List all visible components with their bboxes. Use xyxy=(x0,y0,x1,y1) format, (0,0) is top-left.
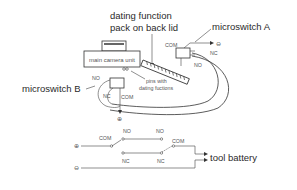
pins-label-line1: pins with xyxy=(146,78,167,84)
plus-terminal-b-icon: ⊕ xyxy=(117,116,122,122)
main-camera-unit: main camera unit xyxy=(84,41,140,70)
schematic-plus-terminal-icon: ⊕ xyxy=(74,143,79,149)
schematic-switch2-nc-label: NC xyxy=(157,158,165,164)
tool-battery-label: tool battery xyxy=(210,152,257,163)
schematic-switch1-nc-label: NC xyxy=(122,158,130,164)
microswitch-a-com-label: COM xyxy=(165,42,177,48)
microswitch-a-label: microswitch A xyxy=(212,21,271,32)
schematic-switch2-com-label: COM xyxy=(172,138,184,144)
microswitch-a-nc-wire xyxy=(184,43,212,48)
microswitch-a-leader xyxy=(195,29,211,42)
arrow-icon xyxy=(210,41,214,45)
dating-pack-label-line1: dating function xyxy=(110,10,172,21)
schematic-minus-terminal-icon: ⊖ xyxy=(74,165,79,171)
main-camera-unit-label: main camera unit xyxy=(89,57,135,63)
microswitch-a-nc-label: NC xyxy=(210,50,218,56)
schematic-switch1-no-label: NO xyxy=(123,128,131,134)
battery-plus-arrow-icon xyxy=(204,152,208,156)
microswitch-b-com-label: COM xyxy=(121,94,133,100)
battery-minus-arrow-icon xyxy=(204,158,208,162)
microswitch-b-no-label: NO xyxy=(92,75,100,81)
microswitch-b-nc-label: NC xyxy=(103,93,111,99)
microswitch-b xyxy=(110,78,124,88)
schematic-switch1-com-label: COM xyxy=(99,135,111,141)
schematic: ⊕ COM NO NC NO NC COM ⊖ tool battery xyxy=(74,128,257,171)
microswitch-a-no-label: NO xyxy=(194,62,202,68)
pins-leader xyxy=(131,71,145,79)
schematic-switch2-no-label: NO xyxy=(156,128,164,134)
dating-pack-label-line2: pack on back lid xyxy=(110,22,178,33)
microswitch-b-label: microswitch B xyxy=(22,83,81,94)
minus-terminal-a-icon: ⊖ xyxy=(216,41,221,47)
microswitch-b-leader xyxy=(86,86,95,89)
pins-label-line2: dating fuctions xyxy=(139,85,174,91)
wiring-diagram: dating function pack on back lid main ca… xyxy=(0,0,297,190)
